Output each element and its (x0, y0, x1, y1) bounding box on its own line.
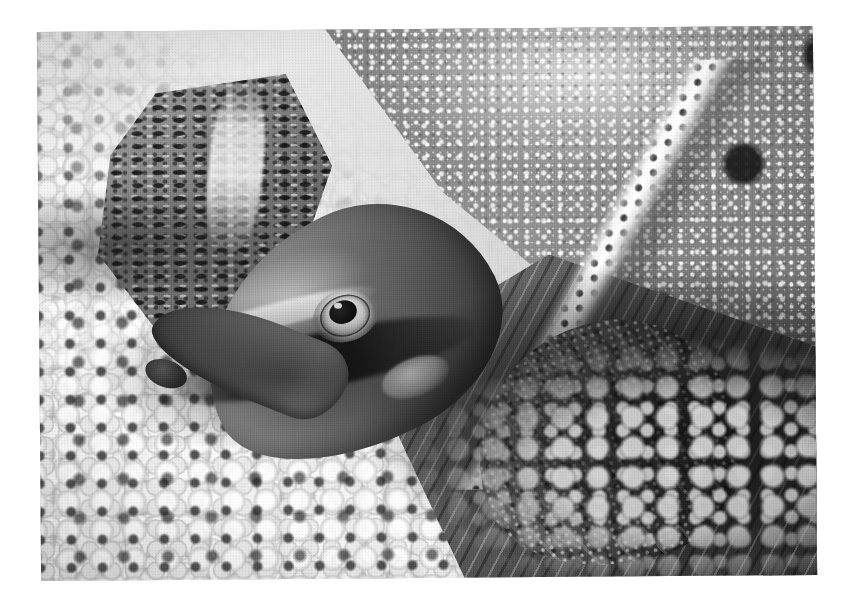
page-canvas: Black-and-white close-up photograph of a… (0, 0, 853, 605)
photograph[interactable] (37, 26, 817, 581)
photograph-caption: Black-and-white close-up photograph of a… (0, 0, 1, 1)
vignette (37, 26, 817, 581)
photograph-figure: Black-and-white close-up photograph of a… (0, 0, 853, 605)
